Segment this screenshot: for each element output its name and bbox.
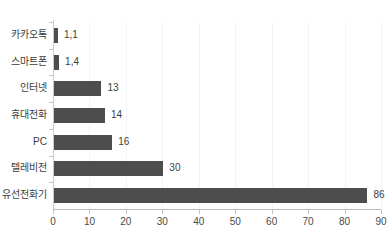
value-label: 1,1 xyxy=(64,29,78,41)
x-axis-tick-label: 90 xyxy=(375,216,386,227)
x-axis-tick-label: 10 xyxy=(84,216,95,227)
bar xyxy=(54,28,58,43)
x-axis-tick-label: 70 xyxy=(303,216,314,227)
gridline xyxy=(308,22,309,209)
x-axis-tick-label: 0 xyxy=(50,216,56,227)
y-axis-tick xyxy=(49,75,53,76)
category-label: 휴대전화 xyxy=(11,109,47,121)
bar xyxy=(54,135,112,150)
x-axis-tick xyxy=(126,210,127,214)
x-axis-tick xyxy=(235,210,236,214)
category-label: 유선전화기 xyxy=(2,189,47,201)
value-label: 1,4 xyxy=(65,56,79,68)
value-label: 16 xyxy=(118,136,129,148)
y-axis-tick xyxy=(49,102,53,103)
bar xyxy=(54,108,105,123)
value-label: 30 xyxy=(169,162,180,174)
gridline xyxy=(126,22,127,209)
x-axis-tick xyxy=(199,210,200,214)
x-axis-tick xyxy=(162,210,163,214)
bar xyxy=(54,55,59,70)
x-axis-tick-label: 40 xyxy=(193,216,204,227)
x-axis-line xyxy=(53,209,381,210)
x-axis-tick-label: 60 xyxy=(266,216,277,227)
gridline xyxy=(345,22,346,209)
y-axis-tick xyxy=(49,129,53,130)
x-axis-tick xyxy=(272,210,273,214)
plot-area: 0102030405060708090카카오톡1,1스마트폰1,4인터넷13휴대… xyxy=(0,0,392,235)
y-axis-tick xyxy=(49,182,53,183)
value-label: 13 xyxy=(107,82,118,94)
x-axis-tick xyxy=(345,210,346,214)
bar xyxy=(54,81,101,96)
y-axis-tick xyxy=(49,49,53,50)
gridline xyxy=(199,22,200,209)
y-axis-tick xyxy=(49,156,53,157)
x-axis-tick-label: 80 xyxy=(339,216,350,227)
bar xyxy=(54,188,367,203)
category-label: 스마트폰 xyxy=(11,56,47,68)
category-label: 카카오톡 xyxy=(11,29,47,41)
x-axis-tick-label: 20 xyxy=(120,216,131,227)
gridline xyxy=(162,22,163,209)
x-axis-tick xyxy=(308,210,309,214)
bar xyxy=(54,161,163,176)
gridline xyxy=(272,22,273,209)
category-label: 인터넷 xyxy=(20,82,47,94)
x-axis-tick xyxy=(381,210,382,214)
bar-chart: 0102030405060708090카카오톡1,1스마트폰1,4인터넷13휴대… xyxy=(0,0,392,235)
y-axis-tick xyxy=(49,22,53,23)
category-label: 텔레비전 xyxy=(11,162,47,174)
gridline xyxy=(381,22,382,209)
x-axis-tick xyxy=(53,210,54,214)
x-axis-tick-label: 30 xyxy=(157,216,168,227)
gridline xyxy=(235,22,236,209)
x-axis-tick-label: 50 xyxy=(230,216,241,227)
value-label: 86 xyxy=(373,189,384,201)
value-label: 14 xyxy=(111,109,122,121)
x-axis-tick xyxy=(89,210,90,214)
category-label: PC xyxy=(33,136,47,148)
